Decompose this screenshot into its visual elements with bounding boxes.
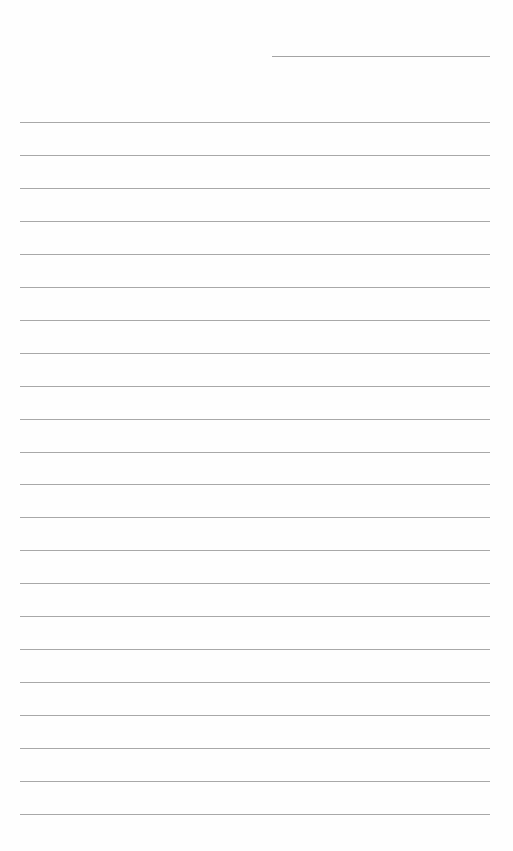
lined-page xyxy=(0,0,513,851)
ruled-line xyxy=(20,748,490,749)
ruled-line xyxy=(20,649,490,650)
ruled-line xyxy=(20,715,490,716)
ruled-line xyxy=(20,452,490,453)
ruled-line xyxy=(20,616,490,617)
ruled-line xyxy=(20,353,490,354)
ruled-line xyxy=(20,814,490,815)
ruled-line xyxy=(20,517,490,518)
ruled-line xyxy=(20,781,490,782)
ruled-line xyxy=(20,419,490,420)
ruled-line xyxy=(20,287,490,288)
ruled-line xyxy=(20,682,490,683)
ruled-line xyxy=(20,221,490,222)
ruled-line xyxy=(20,155,490,156)
ruled-line xyxy=(20,386,490,387)
ruled-line xyxy=(20,320,490,321)
ruled-line xyxy=(20,188,490,189)
ruled-line xyxy=(20,254,490,255)
ruled-line xyxy=(20,550,490,551)
ruled-line xyxy=(20,122,490,123)
ruled-line xyxy=(20,583,490,584)
ruled-line xyxy=(20,484,490,485)
header-name-line xyxy=(272,56,490,57)
